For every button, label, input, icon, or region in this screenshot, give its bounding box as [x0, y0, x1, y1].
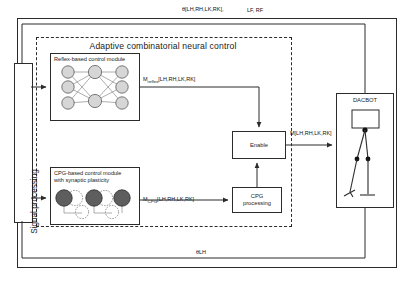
reflex-network-graph — [62, 65, 128, 109]
robot-figure — [344, 110, 379, 197]
wiring — [22, 24, 365, 258]
diagram-canvas: Adaptive combinatorial neural control Si… — [0, 0, 413, 283]
diagram-vectors — [0, 0, 413, 283]
cpg-oscillator-chain — [56, 190, 130, 219]
